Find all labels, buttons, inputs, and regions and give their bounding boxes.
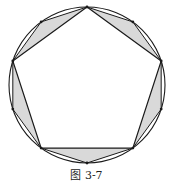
pentagon-decagon-diagram	[0, 0, 173, 181]
vertex-dot	[86, 162, 89, 165]
vertex-dot	[11, 108, 14, 111]
decagon	[13, 7, 161, 163]
vertex-dot	[40, 147, 43, 150]
vertex-dot	[11, 59, 14, 62]
vertex-dot	[160, 59, 163, 62]
vertex-dot	[86, 6, 89, 9]
vertex-dot	[131, 147, 134, 150]
pentagon	[13, 7, 161, 148]
vertex-dot	[160, 108, 163, 111]
figure-caption: 图 3-7	[0, 170, 173, 181]
vertex-points	[11, 6, 162, 165]
vertex-dot	[131, 20, 134, 23]
vertex-dot	[40, 20, 43, 23]
circumscribed-circle	[9, 7, 165, 163]
